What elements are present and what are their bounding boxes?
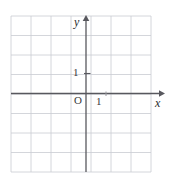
origin-label: O: [74, 95, 82, 106]
coordinate-plane-figure: y x O 1 1: [0, 0, 171, 182]
axis-tick-marks: [84, 74, 106, 97]
y-unit-label: 1: [73, 67, 79, 78]
x-axis-line: [11, 90, 165, 97]
x-axis-label: x: [155, 97, 160, 109]
coordinate-grid-svg: [0, 0, 171, 182]
x-unit-label: 1: [96, 96, 102, 107]
y-axis-label: y: [74, 16, 79, 28]
